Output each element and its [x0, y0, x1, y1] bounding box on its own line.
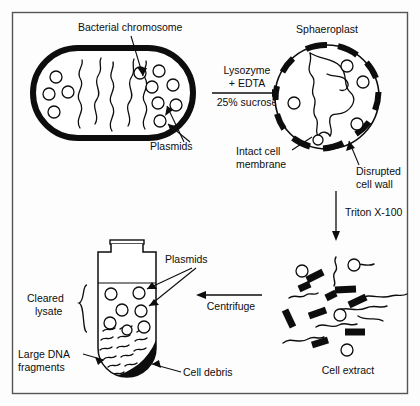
centrifuge-tube [98, 240, 156, 377]
label-disrupted-cell-wall-2: cell wall [356, 178, 393, 190]
cleared-lysate-brace [79, 285, 87, 332]
label-large-dna-1: Large DNA [18, 348, 70, 360]
label-plasmids-cell: Plasmids [150, 140, 193, 152]
label-cell-extract: Cell extract [322, 364, 375, 376]
label-edta: + EDTA [229, 77, 265, 89]
sphaeroplast [275, 45, 379, 149]
label-triton: Triton X-100 [345, 206, 403, 218]
arrowhead-triton [332, 231, 340, 241]
arrowhead-centrifuge [196, 291, 206, 299]
tube-cap [110, 240, 144, 244]
label-sphaeroplast: Sphaeroplast [296, 23, 358, 35]
label-large-dna-2: fragments [18, 361, 65, 373]
label-intact-cell-membrane-1: Intact cell [236, 145, 280, 157]
figure-canvas: Bacterial chromosome Plasmids Lysozyme +… [0, 0, 420, 406]
label-lysozyme: Lysozyme [224, 64, 271, 76]
diagram-svg: Bacterial chromosome Plasmids Lysozyme +… [0, 0, 420, 406]
label-centrifuge: Centrifuge [207, 300, 256, 312]
step-lysozyme: Lysozyme + EDTA 25% sucrose [212, 64, 282, 108]
step-centrifuge: Centrifuge [196, 291, 262, 312]
label-cell-debris: Cell debris [183, 366, 233, 378]
label-sucrose: 25% sucrose [217, 96, 278, 108]
label-plasmids-tube: Plasmids [165, 253, 208, 265]
label-cleared-lysate-1: Cleared [27, 292, 64, 304]
label-intact-cell-membrane-2: membrane [236, 158, 286, 170]
label-disrupted-cell-wall-1: Disrupted [356, 165, 401, 177]
label-bacterial-chromosome: Bacterial chromosome [78, 21, 183, 33]
cell-wall-fragment-rods [285, 272, 366, 345]
label-cleared-lysate-2: lysate [35, 305, 63, 317]
step-triton: Triton X-100 [332, 191, 403, 241]
cell-extract: Cell extract [283, 257, 407, 376]
